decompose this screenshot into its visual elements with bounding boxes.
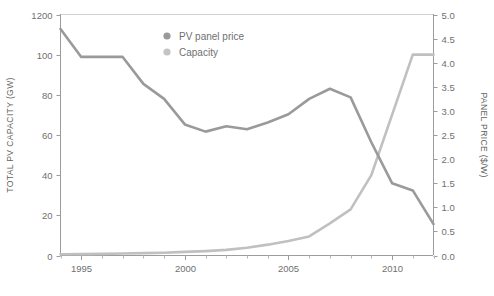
left-tick-label-40: 40 [42, 170, 53, 181]
legend-label-pv-panel-price: PV panel price [179, 31, 244, 42]
legend-swatch-pv-panel-price [163, 32, 170, 39]
left-tick-label-20: 20 [42, 210, 53, 221]
left-tick-label-80: 80 [42, 90, 53, 101]
left-tick-label-0: 0 [47, 251, 52, 262]
right-tick-label-4.0: 4.0 [442, 58, 455, 69]
x-tick-label-2005: 2005 [278, 263, 299, 274]
chart-background [0, 0, 494, 296]
chart-figure: 0204060801001200 0.00.51.01.52.02.53.03.… [0, 0, 494, 296]
x-tick-label-1995: 1995 [71, 263, 92, 274]
right-axis-title: PANEL PRICE ($/W) [479, 92, 489, 177]
right-tick-label-5.0: 5.0 [442, 10, 455, 21]
right-tick-label-0.5: 0.5 [442, 226, 455, 237]
right-tick-label-2.0: 2.0 [442, 154, 455, 165]
right-tick-label-1.5: 1.5 [442, 178, 455, 189]
left-tick-label-60: 60 [42, 130, 53, 141]
left-tick-label-100: 100 [37, 50, 53, 61]
x-tick-label-2000: 2000 [175, 263, 196, 274]
right-tick-label-3.0: 3.0 [442, 106, 455, 117]
right-tick-label-3.5: 3.5 [442, 82, 455, 93]
left-tick-label-120: 1200 [31, 10, 52, 21]
right-tick-label-0.0: 0.0 [442, 251, 455, 262]
legend-label-capacity: Capacity [179, 47, 218, 58]
dual-axis-line-chart: 0204060801001200 0.00.51.01.52.02.53.03.… [0, 0, 494, 296]
x-tick-label-2010: 2010 [382, 263, 403, 274]
right-tick-label-4.5: 4.5 [442, 34, 455, 45]
right-tick-label-1.0: 1.0 [442, 202, 455, 213]
right-tick-label-2.5: 2.5 [442, 130, 455, 141]
legend-swatch-capacity [163, 48, 170, 55]
left-axis-title: TOTAL PV CAPACITY (GW) [5, 77, 15, 193]
